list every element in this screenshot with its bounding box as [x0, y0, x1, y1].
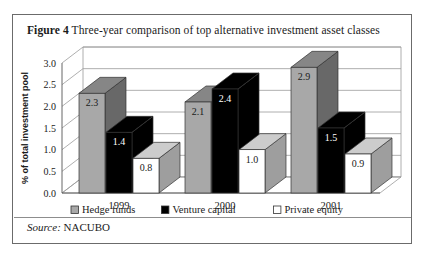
- source-divider: [14, 217, 411, 218]
- y-axis-tick-label: 1.0: [44, 144, 57, 155]
- legend-label: Hedge funds: [82, 204, 135, 215]
- y-axis-tick-label: 0.0: [44, 188, 57, 199]
- source-value: NACUBO: [64, 221, 110, 233]
- legend-label: Private equity: [284, 204, 343, 215]
- chart-plot-area: 0.00.51.01.52.02.53.0% of total investme…: [14, 41, 412, 219]
- figure-frame: Figure 4 Three-year comparison of top al…: [12, 14, 412, 244]
- legend-label: Venture capital: [172, 204, 235, 215]
- y-axis-tick-label: 3.0: [44, 58, 57, 69]
- figure-caption: Figure 4 Three-year comparison of top al…: [27, 24, 399, 36]
- source-line: Source: NACUBO: [27, 221, 110, 233]
- bar-value-label: 2.4: [219, 93, 232, 104]
- bar-value-label: 2.1: [192, 106, 205, 117]
- bar-value-label: 1.0: [246, 154, 259, 165]
- legend-swatch: [273, 206, 281, 214]
- legend-swatch: [71, 206, 79, 214]
- figure-screenshot: Figure 4 Three-year comparison of top al…: [0, 0, 429, 261]
- bar-chart-3d: 0.00.51.01.52.02.53.0% of total investme…: [14, 41, 412, 219]
- bar-value-label: 2.9: [298, 71, 311, 82]
- source-label: Source:: [27, 221, 61, 233]
- y-axis-tick-label: 1.5: [44, 123, 57, 134]
- bar-value-label: 0.8: [140, 162, 153, 173]
- y-axis-tick-label: 2.0: [44, 101, 57, 112]
- figure-number: Figure 4: [27, 24, 69, 36]
- bar-value-label: 1.5: [325, 132, 338, 143]
- bar-value-label: 0.9: [352, 158, 365, 169]
- legend-swatch: [161, 206, 169, 214]
- bar-value-label: 1.4: [113, 136, 126, 147]
- y-axis-title: % of total investment pool: [20, 72, 30, 184]
- y-axis-tick-label: 0.5: [44, 166, 57, 177]
- figure-title-text: Three-year comparison of top alternative…: [72, 24, 380, 36]
- bar-value-label: 2.3: [86, 97, 99, 108]
- y-axis-tick-label: 2.5: [44, 79, 57, 90]
